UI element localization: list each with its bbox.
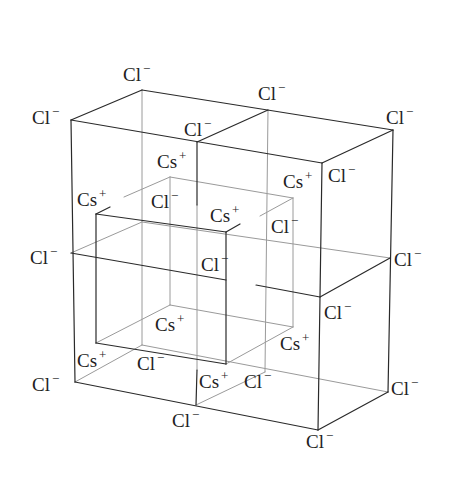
- chloride-ion-label: Cl−: [394, 246, 421, 270]
- cesium-ion-label: Cs+: [77, 186, 106, 210]
- chloride-ion-label: Cl−: [271, 213, 298, 237]
- lattice-edge-hidden: [265, 110, 268, 372]
- hidden-edges: [71, 90, 390, 405]
- lattice-edge: [388, 130, 393, 392]
- ion-charge: −: [221, 251, 228, 266]
- chloride-ion-label: Cl−: [201, 251, 228, 275]
- cscl-crystal-diagram: Cl−Cl−Cl−Cl−Cl−Cs+Cs+Cl−Cs+Cl−Cs+Cl−Cl−C…: [0, 0, 451, 477]
- chloride-ion-label: Cl−: [30, 244, 57, 268]
- lattice-edge: [320, 258, 390, 297]
- chloride-ion-label: Cl−: [386, 104, 413, 128]
- ion-charge: −: [406, 104, 413, 119]
- chloride-ion-label: Cl−: [244, 368, 271, 392]
- ion-charge: −: [291, 213, 298, 228]
- lattice-edge: [322, 130, 393, 163]
- ion-charge: −: [264, 368, 271, 383]
- chloride-ion-label: Cl−: [328, 162, 355, 186]
- ion-charge: +: [305, 168, 312, 183]
- lattice-edge-hidden: [170, 305, 293, 327]
- ion-charge: −: [171, 188, 178, 203]
- chloride-ion-label: Cl−: [172, 407, 199, 431]
- ion-charge: +: [99, 347, 106, 362]
- lattice-edge: [196, 370, 197, 405]
- chloride-ion-label: Cl−: [137, 350, 164, 374]
- chloride-ion-label: Cl−: [258, 80, 285, 104]
- cesium-ion-label: Cs+: [155, 311, 184, 335]
- ion-charge: −: [50, 244, 57, 259]
- ion-charge: +: [99, 186, 106, 201]
- chloride-ion-label: Cl−: [184, 116, 211, 140]
- lattice-edge-hidden: [170, 177, 293, 198]
- cesium-ion-label: Cs+: [210, 202, 239, 226]
- visible-edges: [71, 90, 393, 430]
- chloride-ion-label: Cl−: [32, 371, 59, 395]
- ion-charge: +: [302, 330, 309, 345]
- ion-charge: −: [157, 350, 164, 365]
- ion-charge: −: [344, 299, 351, 314]
- lattice-edge-hidden: [71, 222, 142, 253]
- ion-charge: +: [221, 368, 228, 383]
- cesium-ion-label: Cs+: [283, 168, 312, 192]
- ion-charge: −: [192, 407, 199, 422]
- lattice-edge: [318, 392, 388, 430]
- ion-charge: −: [348, 162, 355, 177]
- chloride-ion-label: Cl−: [391, 375, 418, 399]
- ion-charge: +: [177, 311, 184, 326]
- ion-charge: −: [143, 61, 150, 76]
- ion-charge: −: [278, 80, 285, 95]
- chloride-ion-label: Cl−: [151, 188, 178, 212]
- ion-charge: −: [411, 375, 418, 390]
- chloride-ion-label: Cl−: [324, 299, 351, 323]
- chloride-ion-label: Cl−: [123, 61, 150, 85]
- lattice-edge: [71, 90, 142, 120]
- crystal-lattice-drawing: Cl−Cl−Cl−Cl−Cl−Cs+Cs+Cl−Cs+Cl−Cs+Cl−Cl−C…: [0, 0, 451, 477]
- ion-charge: −: [414, 246, 421, 261]
- chloride-ion-label: Cl−: [32, 104, 59, 128]
- ion-charge: +: [179, 148, 186, 163]
- cesium-ion-label: Cs+: [280, 330, 309, 354]
- chloride-ion-label: Cl−: [306, 428, 333, 452]
- ion-charge: −: [52, 371, 59, 386]
- ion-charge: −: [204, 116, 211, 131]
- lattice-edge: [96, 214, 226, 232]
- lattice-edge-hidden: [260, 198, 293, 216]
- cesium-ion-label: Cs+: [157, 148, 186, 172]
- lattice-edge: [96, 207, 110, 214]
- ion-charge: +: [232, 202, 239, 217]
- ion-charge: −: [326, 428, 333, 443]
- ion-charge: −: [52, 104, 59, 119]
- cesium-ion-label: Cs+: [199, 368, 228, 392]
